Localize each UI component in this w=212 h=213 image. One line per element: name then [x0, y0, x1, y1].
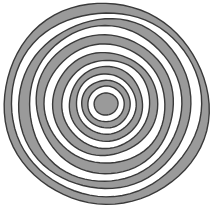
concentric-rings-graphic [0, 0, 212, 213]
figure-root [0, 0, 212, 213]
ring-1-core [94, 93, 118, 115]
